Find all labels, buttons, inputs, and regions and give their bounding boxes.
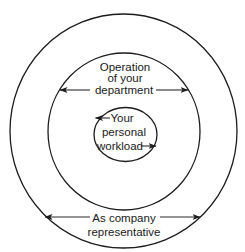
outer-label-line-2: representative — [88, 226, 161, 238]
outer-label-line-1: As company — [92, 212, 156, 224]
concentric-circles-diagram: As company representative Operation of y… — [0, 0, 245, 252]
inner-label-line-2: personal — [102, 126, 146, 138]
middle-label-line-2: of your — [107, 72, 142, 84]
inner-label-line-1: Your — [110, 112, 133, 124]
middle-label-line-3: department — [95, 84, 154, 96]
inner-label-line-3: workload — [96, 140, 143, 152]
inner-ring-personal-workload: Your personal workload — [94, 108, 157, 162]
